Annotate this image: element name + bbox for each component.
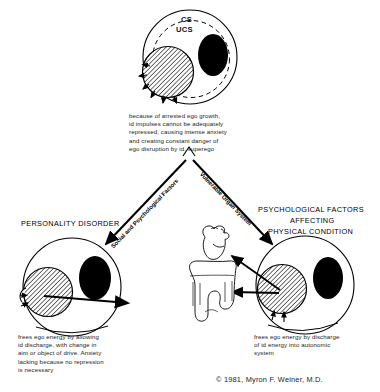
- personality-disorder-diagram: [20, 238, 128, 336]
- label-ucs: UCS: [176, 26, 193, 35]
- outcome-title-psych-factors-line2: AFFECTING: [290, 217, 335, 226]
- copyright-notice: © 1981, Myron F. Weiner, M.D.: [216, 375, 323, 384]
- right-caption: frees ego energy by discharge of id ener…: [254, 333, 380, 358]
- outcome-title-psych-factors-line3: PHYSICAL CONDITION: [268, 228, 353, 237]
- outcome-title-psych-factors-line1: PSYCHOLOGICAL FACTORS: [258, 206, 364, 215]
- outcome-title-personality-disorder: PERSONALITY DISORDER: [21, 220, 120, 229]
- left-caption: frees ego energy by allowing id discharg…: [18, 333, 143, 374]
- figure-canvas: CS UCS because of arrested ego growth, i…: [0, 0, 380, 392]
- colon-organ-icon: [189, 261, 236, 321]
- label-cs: CS: [181, 16, 192, 25]
- heart-organ-icon: [203, 226, 229, 260]
- top-caption: because of arrested ego growth, id impul…: [129, 112, 259, 153]
- psychological-factors-diagram: [232, 236, 354, 334]
